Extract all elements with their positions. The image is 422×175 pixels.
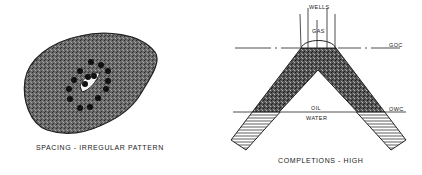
well-dot-icon [88,59,94,65]
well-dot-icon [77,105,83,111]
well-dot-icon [105,78,111,84]
wells-label: WELLS [309,4,330,10]
well-dot-icon [91,73,97,79]
owc-label: OWC [389,106,404,112]
water-label: WATER [306,115,327,121]
spacing-irregular-pattern-figure: SPACING - IRREGULAR PATTERN [0,0,211,175]
well-dot-icon [71,77,77,83]
gas-cap [301,41,336,49]
right-caption: COMPLETIONS - HIGH [278,157,363,164]
well-dot-icon [66,86,72,92]
oil-label: OIL [311,105,321,111]
completions-high-figure: WELLS GAS GOC OIL WATER OWC COMPLETIONS … [211,0,422,175]
well-dot-icon [67,96,73,102]
well-dot-icon [103,86,109,92]
well-dot-icon [105,68,111,74]
anticline-cross-section [211,0,422,175]
gas-label: GAS [312,28,325,34]
well-dot-icon [87,104,93,110]
well-dot-icon [77,68,83,74]
well-dot-icon [95,95,101,101]
well-dot-icon [85,74,91,80]
well-dot-icon [98,62,104,68]
left-caption: SPACING - IRREGULAR PATTERN [36,144,164,151]
well-dot-icon [82,81,88,87]
goc-label: GOC [389,42,403,48]
